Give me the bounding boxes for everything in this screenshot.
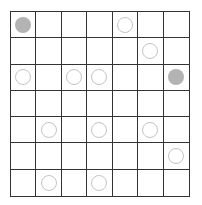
board-cell[interactable] bbox=[62, 117, 87, 143]
board-cell[interactable] bbox=[113, 12, 138, 38]
board-cell[interactable] bbox=[62, 65, 87, 91]
filled-circle-piece bbox=[15, 17, 31, 33]
board-cell[interactable] bbox=[164, 91, 189, 117]
board-cell[interactable] bbox=[87, 117, 112, 143]
board-cell[interactable] bbox=[36, 117, 61, 143]
board-cell[interactable] bbox=[113, 170, 138, 196]
board-cell[interactable] bbox=[11, 117, 36, 143]
board-cell[interactable] bbox=[87, 12, 112, 38]
board-cell[interactable] bbox=[62, 170, 87, 196]
board-cell[interactable] bbox=[138, 65, 163, 91]
board-cell[interactable] bbox=[36, 65, 61, 91]
board-cell[interactable] bbox=[87, 65, 112, 91]
board-cell[interactable] bbox=[138, 143, 163, 169]
board-cell[interactable] bbox=[62, 91, 87, 117]
game-board bbox=[10, 11, 190, 197]
board-cell[interactable] bbox=[138, 170, 163, 196]
filled-circle-piece bbox=[168, 69, 184, 85]
board-cell[interactable] bbox=[138, 12, 163, 38]
board-cell[interactable] bbox=[113, 117, 138, 143]
board-cell[interactable] bbox=[36, 170, 61, 196]
board-cell[interactable] bbox=[11, 143, 36, 169]
outline-circle-piece bbox=[142, 122, 158, 138]
outline-circle-piece bbox=[15, 69, 31, 85]
outline-circle-piece bbox=[91, 175, 107, 191]
board-cell[interactable] bbox=[36, 12, 61, 38]
outline-circle-piece bbox=[66, 69, 82, 85]
outline-circle-piece bbox=[41, 175, 57, 191]
board-cell[interactable] bbox=[138, 91, 163, 117]
board-cell[interactable] bbox=[164, 170, 189, 196]
board-cell[interactable] bbox=[113, 65, 138, 91]
board-cell[interactable] bbox=[11, 170, 36, 196]
board-cell[interactable] bbox=[11, 12, 36, 38]
board-cell[interactable] bbox=[87, 38, 112, 64]
board-cell[interactable] bbox=[164, 38, 189, 64]
outline-circle-piece bbox=[91, 122, 107, 138]
board-cell[interactable] bbox=[11, 65, 36, 91]
board-cell[interactable] bbox=[11, 91, 36, 117]
board-cell[interactable] bbox=[62, 12, 87, 38]
board-cell[interactable] bbox=[87, 143, 112, 169]
board-cell[interactable] bbox=[164, 65, 189, 91]
board-cell[interactable] bbox=[87, 170, 112, 196]
board-cell[interactable] bbox=[113, 38, 138, 64]
board-cell[interactable] bbox=[62, 38, 87, 64]
board-cell[interactable] bbox=[164, 12, 189, 38]
board-cell[interactable] bbox=[36, 38, 61, 64]
outline-circle-piece bbox=[91, 69, 107, 85]
outline-circle-piece bbox=[117, 17, 133, 33]
board-cell[interactable] bbox=[87, 91, 112, 117]
board-cell[interactable] bbox=[164, 143, 189, 169]
outline-circle-piece bbox=[168, 148, 184, 164]
board-cell[interactable] bbox=[11, 38, 36, 64]
board-cell[interactable] bbox=[138, 117, 163, 143]
board-cell[interactable] bbox=[36, 91, 61, 117]
board-cell[interactable] bbox=[164, 117, 189, 143]
board-cell[interactable] bbox=[113, 91, 138, 117]
board-cell[interactable] bbox=[113, 143, 138, 169]
board-cell[interactable] bbox=[36, 143, 61, 169]
board-cell[interactable] bbox=[138, 38, 163, 64]
outline-circle-piece bbox=[41, 122, 57, 138]
board-cell[interactable] bbox=[62, 143, 87, 169]
outline-circle-piece bbox=[142, 43, 158, 59]
